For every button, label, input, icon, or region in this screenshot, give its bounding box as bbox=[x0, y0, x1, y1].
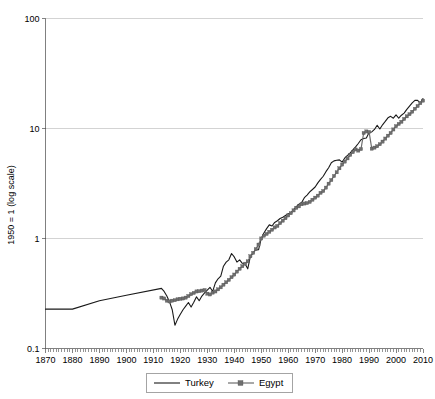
y-tick-label-100: 100 bbox=[24, 14, 39, 24]
data-point-marker bbox=[421, 99, 424, 102]
data-point-marker bbox=[332, 174, 335, 177]
chart-container: 0.1110100 187018801890190019101920193019… bbox=[0, 0, 435, 399]
y-axis-title: 1950 = 1 (log scale) bbox=[6, 165, 16, 244]
x-tick-label-1950: 1950 bbox=[251, 355, 271, 365]
data-point-marker bbox=[341, 163, 344, 166]
data-point-marker bbox=[338, 167, 341, 170]
x-tick-label-1880: 1880 bbox=[62, 355, 82, 365]
x-tick-label-1970: 1970 bbox=[305, 355, 325, 365]
data-point-marker bbox=[346, 157, 349, 160]
x-tick-label-1960: 1960 bbox=[278, 355, 298, 365]
data-point-marker bbox=[381, 140, 384, 143]
chart-legend: Turkey Egypt bbox=[146, 373, 292, 392]
data-point-marker bbox=[359, 147, 362, 150]
data-point-marker bbox=[335, 171, 338, 174]
log-scale-line-chart: 0.1110100 187018801890190019101920193019… bbox=[0, 0, 435, 399]
x-tick-labels-group: 1870188018901900191019201930194019501960… bbox=[35, 355, 433, 365]
x-tick-label-1870: 1870 bbox=[35, 355, 55, 365]
y-tick-label-1: 1 bbox=[34, 234, 39, 244]
data-point-marker bbox=[327, 182, 330, 185]
data-point-marker bbox=[254, 248, 257, 251]
x-tick-label-1920: 1920 bbox=[170, 355, 190, 365]
x-tick-label-1890: 1890 bbox=[89, 355, 109, 365]
y-tick-label-0.1: 0.1 bbox=[27, 344, 40, 354]
data-point-marker bbox=[322, 189, 325, 192]
x-tick-label-1910: 1910 bbox=[143, 355, 163, 365]
x-tick-label-1900: 1900 bbox=[116, 355, 136, 365]
data-point-marker bbox=[330, 178, 333, 181]
x-tick-label-1930: 1930 bbox=[197, 355, 217, 365]
data-point-marker bbox=[203, 288, 206, 291]
data-point-marker bbox=[343, 160, 346, 163]
legend-label-egypt: Egypt bbox=[259, 377, 284, 388]
x-tick-label-1940: 1940 bbox=[224, 355, 244, 365]
data-point-marker bbox=[233, 273, 236, 276]
y-tick-label-10: 10 bbox=[29, 124, 39, 134]
chart-background bbox=[0, 0, 435, 399]
x-tick-label-1980: 1980 bbox=[332, 355, 352, 365]
data-point-marker bbox=[246, 260, 249, 263]
data-point-marker bbox=[249, 255, 252, 258]
data-point-marker bbox=[411, 110, 414, 113]
x-tick-label-2010: 2010 bbox=[413, 355, 433, 365]
data-point-marker bbox=[367, 130, 370, 133]
x-tick-label-1990: 1990 bbox=[359, 355, 379, 365]
data-point-marker bbox=[416, 104, 419, 107]
data-point-marker bbox=[257, 243, 260, 246]
data-point-marker bbox=[252, 251, 255, 254]
data-point-marker bbox=[392, 128, 395, 131]
legend-marker-egypt-icon bbox=[238, 381, 243, 386]
data-point-marker bbox=[324, 186, 327, 189]
data-point-marker bbox=[389, 131, 392, 134]
x-tick-label-2000: 2000 bbox=[386, 355, 406, 365]
legend-label-turkey: Turkey bbox=[185, 377, 214, 388]
